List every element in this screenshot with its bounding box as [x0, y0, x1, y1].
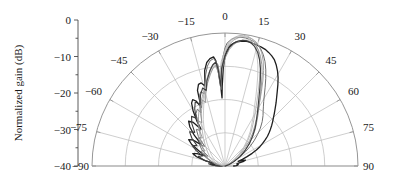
radial-tick-label: −20: [54, 87, 72, 99]
angular-tick-label: −90: [72, 160, 90, 172]
angular-tick-label: 0: [222, 10, 228, 22]
pattern-traces: [189, 35, 279, 166]
polar-chart-canvas: 0−10−20−30−40Normalized gain (dB)−90−75−…: [0, 0, 400, 183]
angular-tick-label: 45: [326, 54, 338, 66]
angular-tick-label: 60: [348, 85, 360, 97]
radial-tick-label: 0: [66, 14, 72, 26]
radial-tick-label: −10: [54, 51, 72, 63]
angular-tick-label: −30: [141, 30, 159, 42]
angular-tick-label: −45: [110, 54, 128, 66]
angular-tick-label: 75: [363, 121, 375, 133]
polar-plot-figure: 0−10−20−30−40Normalized gain (dB)−90−75−…: [0, 0, 400, 183]
radial-axis: [74, 20, 78, 166]
angular-tick-label: −75: [70, 121, 88, 133]
angular-tick-label: 30: [295, 30, 307, 42]
angular-tick-label: −15: [178, 15, 196, 27]
radial-tick-label: −30: [54, 124, 72, 136]
angular-tick-label: 15: [258, 15, 270, 27]
angular-tick-label: −60: [85, 85, 103, 97]
angular-tick-label: 90: [363, 160, 375, 172]
radial-tick-label: −40: [54, 160, 72, 172]
radial-axis-title: Normalized gain (dB): [12, 44, 25, 141]
